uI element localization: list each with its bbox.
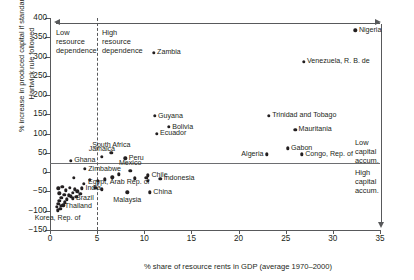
data-point[interactable] <box>159 177 162 180</box>
y-tick-label: −50 <box>33 186 47 195</box>
annotation-high-resource-dependence: High resource dependence <box>102 28 143 56</box>
data-point[interactable] <box>267 114 270 117</box>
x-tick-label: 5 <box>95 234 100 243</box>
x-tick-label: 30 <box>328 234 337 243</box>
data-point-label: Mexico <box>119 159 141 167</box>
data-point-label: Indonesia <box>164 174 195 182</box>
data-point[interactable] <box>117 173 120 176</box>
data-point[interactable] <box>155 132 158 135</box>
data-point-label: Mauritania <box>299 125 332 133</box>
data-point[interactable] <box>61 185 64 188</box>
horizontal-annotation-arrow <box>56 23 380 24</box>
x-tick-label: 25 <box>281 234 290 243</box>
arrow-down-head-icon <box>378 222 384 228</box>
data-point[interactable] <box>72 176 75 179</box>
data-point-label: Guyana <box>158 112 183 120</box>
x-axis-title: % share of resource rents in GDP (averag… <box>78 262 398 271</box>
data-point-label: Algeria <box>241 150 263 158</box>
data-point[interactable] <box>265 153 268 156</box>
annotation-low-capital-accum: Low capital accum. <box>355 138 379 166</box>
data-point[interactable] <box>68 186 71 189</box>
x-tick-label: 35 <box>375 234 384 243</box>
x-tick-label: 0 <box>48 234 53 243</box>
data-point[interactable] <box>302 60 305 63</box>
data-point[interactable] <box>100 155 103 158</box>
annotation-high-capital-accum: High capital accum. <box>355 168 379 196</box>
annotation-low-resource-dependence: Low resource dependence <box>56 28 97 56</box>
y-tick-label: 300 <box>33 52 47 61</box>
data-point-label: Malaysia <box>113 196 141 204</box>
scatter-chart: % increase in produced capital if standa… <box>0 0 414 280</box>
data-point[interactable] <box>71 191 74 194</box>
data-point[interactable] <box>148 191 151 194</box>
y-tick-label: 250 <box>33 71 47 80</box>
arrow-left-head-icon <box>54 19 60 25</box>
data-point-label: Nigeria <box>359 26 381 34</box>
y-axis-line <box>50 18 51 231</box>
data-point-label: Thailand <box>65 202 92 210</box>
data-point[interactable] <box>293 128 296 131</box>
data-point[interactable] <box>126 191 129 194</box>
data-point-label: Ecuador <box>160 129 186 137</box>
y-tick-label: 150 <box>33 109 47 118</box>
data-point-label: Zambia <box>157 48 181 56</box>
resource-dependence-divider-line <box>97 18 98 230</box>
data-point-label: China <box>153 188 172 196</box>
data-point-label: Jamaica <box>89 145 115 153</box>
data-point[interactable] <box>80 187 83 190</box>
data-point[interactable] <box>153 114 156 117</box>
data-point-label: Congo, Rep. of <box>305 150 353 158</box>
data-point-label: Ghana <box>74 156 95 164</box>
data-point-label: Zimbabwe <box>88 165 121 173</box>
x-tick-label: 20 <box>234 234 243 243</box>
data-point-label: Korea, Rep. of <box>35 214 81 222</box>
y-axis-title: % increase in produced capital if standa… <box>17 0 36 164</box>
data-point[interactable] <box>83 167 86 170</box>
data-point[interactable] <box>62 193 65 196</box>
y-tick-label: 100 <box>33 129 47 138</box>
data-point[interactable] <box>286 147 289 150</box>
zero-capital-reference-line <box>50 163 380 164</box>
data-point[interactable] <box>59 207 62 210</box>
data-point[interactable] <box>354 29 357 32</box>
data-point[interactable] <box>64 189 67 192</box>
y-tick-label: 350 <box>33 32 47 41</box>
data-point[interactable] <box>152 51 155 54</box>
vertical-annotation-arrow <box>381 24 382 224</box>
y-tick-label: −150 <box>29 225 47 234</box>
x-axis-line <box>49 230 381 231</box>
y-tick-label: 50 <box>38 148 47 157</box>
y-tick-label: 400 <box>33 13 47 22</box>
x-tick-label: 10 <box>140 234 149 243</box>
data-point[interactable] <box>100 187 103 190</box>
data-point[interactable] <box>58 192 61 195</box>
data-point[interactable] <box>300 153 303 156</box>
y-tick-label: 200 <box>33 90 47 99</box>
x-tick-label: 15 <box>187 234 196 243</box>
data-point-label: Trinidad and Tobago <box>272 111 336 119</box>
data-point-label: Venezuela, R. B. de <box>307 57 370 65</box>
y-tick-label: 0 <box>42 167 47 176</box>
data-point[interactable] <box>128 169 131 172</box>
